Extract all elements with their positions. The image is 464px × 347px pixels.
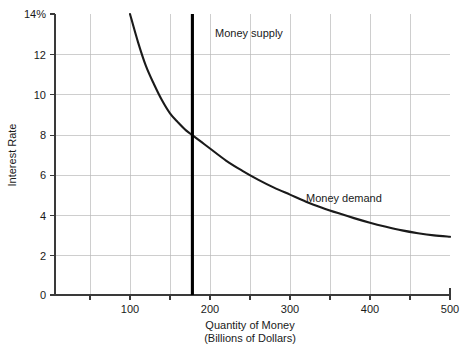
- x-axis-title: Quantity of Money: [205, 319, 295, 331]
- money-demand-label: Money demand: [306, 192, 382, 204]
- y-tick-label-10: 10: [34, 89, 46, 101]
- y-tick-label-12: 12: [34, 49, 46, 61]
- x-tick-label-500: 500: [441, 303, 459, 315]
- y-axis-tick-labels: 14% 12 10 8 6 4 2 0: [24, 8, 46, 301]
- money-market-chart: 14% 12 10 8 6 4 2 0 100 200 300: [0, 0, 464, 347]
- x-tick-label-400: 400: [361, 303, 379, 315]
- x-axis-tick-labels: 100 200 300 400 500: [121, 303, 459, 315]
- y-axis-tick-marks: [50, 14, 55, 295]
- axis-lines: [55, 14, 450, 295]
- y-axis-title: Interest Rate: [6, 124, 18, 187]
- x-axis-tick-marks: [90, 295, 450, 300]
- money-supply-label: Money supply: [215, 27, 283, 39]
- x-tick-label-200: 200: [201, 303, 219, 315]
- horizontal-gridlines: [55, 55, 450, 256]
- y-tick-label-6: 6: [40, 169, 46, 181]
- y-tick-label-8: 8: [40, 129, 46, 141]
- x-tick-label-300: 300: [281, 303, 299, 315]
- x-axis-subtitle: (Billions of Dollars): [204, 332, 296, 344]
- y-tick-label-14: 14%: [24, 8, 46, 20]
- y-tick-label-4: 4: [40, 210, 46, 222]
- y-tick-label-2: 2: [40, 250, 46, 262]
- vertical-gridlines: [90, 14, 410, 295]
- x-tick-label-100: 100: [121, 303, 139, 315]
- y-tick-label-0: 0: [40, 289, 46, 301]
- chart-svg: 14% 12 10 8 6 4 2 0 100 200 300: [0, 0, 464, 347]
